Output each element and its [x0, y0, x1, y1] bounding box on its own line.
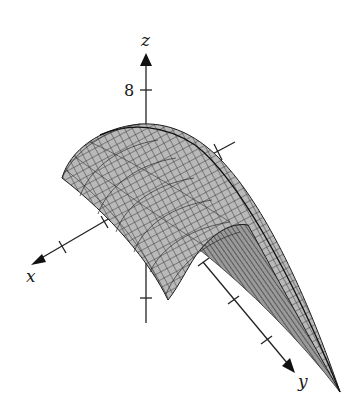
x-axis: x [26, 216, 110, 286]
surface-top [62, 124, 340, 392]
z-tick-label: 8 [124, 81, 134, 100]
z-axis-arrow-icon [140, 53, 152, 66]
y-axis-arrow-icon [282, 358, 295, 373]
x-axis-arrow-icon [31, 254, 46, 265]
y-axis-label: y [297, 371, 308, 391]
surface-plot: 8 z x y [0, 0, 358, 411]
z-axis-label: z [140, 30, 151, 50]
x-axis-label: x [26, 266, 36, 286]
